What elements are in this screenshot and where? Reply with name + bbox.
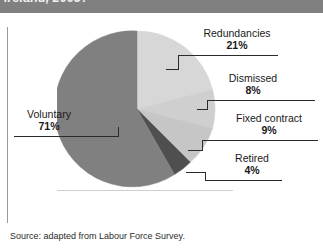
label-rule-retired [205, 180, 282, 181]
figure-container: Ireland, 2005? Redundancies [0, 0, 323, 251]
label-dismissed: Dismissed 8% [222, 72, 284, 96]
label-retired-value: 4% [222, 164, 282, 176]
leader-fixed-contract-vertical [202, 140, 203, 150]
label-rule-dismissed [207, 100, 315, 101]
leader-fixed-contract-horizontal [188, 150, 203, 151]
label-rule-voluntary [14, 136, 100, 137]
leader-voluntary-horizontal [99, 136, 119, 137]
label-fixed-contract-value: 9% [221, 124, 317, 136]
leader-retired-horizontal [186, 172, 206, 173]
label-dismissed-name: Dismissed [222, 72, 284, 84]
label-voluntary: Voluntary 71% [12, 108, 86, 132]
label-voluntary-name: Voluntary [12, 108, 86, 120]
label-retired-name: Retired [222, 152, 282, 164]
label-dismissed-value: 8% [222, 84, 284, 96]
label-redundancies-name: Redundancies [196, 27, 278, 39]
figure-title-bar: Ireland, 2005? [0, 0, 323, 13]
leader-voluntary-vertical [118, 127, 119, 137]
label-redundancies: Redundancies 21% [196, 27, 278, 51]
background-rule-line [57, 190, 233, 191]
label-voluntary-value: 71% [12, 120, 86, 132]
leader-redundancies-vertical [178, 55, 179, 69]
frame-left-rule [7, 27, 8, 223]
leader-dismissed-vertical [207, 100, 208, 109]
leader-retired-vertical [205, 172, 206, 181]
label-retired: Retired 4% [222, 152, 282, 176]
label-redundancies-value: 21% [196, 39, 278, 51]
page-title: Ireland, 2005? [4, 0, 89, 5]
label-fixed-contract: Fixed contract 9% [221, 112, 317, 136]
label-rule-redundancies [178, 55, 278, 56]
leader-redundancies-horizontal [166, 69, 179, 70]
leader-dismissed-horizontal [197, 109, 208, 110]
label-fixed-contract-name: Fixed contract [221, 112, 317, 124]
source-caption: Source: adapted from Labour Force Survey… [10, 231, 185, 241]
label-rule-fixed-contract [202, 140, 318, 141]
